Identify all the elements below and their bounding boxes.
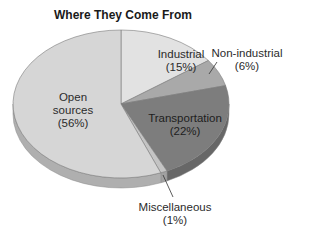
label-miscellaneous: Miscellaneous (1%) xyxy=(130,201,220,227)
label-open-sources: Open sources (56%) xyxy=(38,91,108,130)
label-nonindustrial-pct: (6%) xyxy=(205,60,287,73)
label-open-name-1: Open xyxy=(38,91,108,104)
label-open-pct: (56%) xyxy=(38,117,108,130)
label-misc-pct: (1%) xyxy=(130,214,220,227)
label-open-name-2: sources xyxy=(38,104,108,117)
label-transportation-pct: (22%) xyxy=(140,125,230,138)
label-transportation: Transportation (22%) xyxy=(140,112,230,138)
label-nonindustrial: Non-industrial (6%) xyxy=(205,47,287,73)
label-industrial-pct: (15%) xyxy=(150,61,212,74)
label-industrial-name: Industrial xyxy=(150,48,212,61)
label-industrial: Industrial (15%) xyxy=(150,48,212,74)
label-misc-name: Miscellaneous xyxy=(130,201,220,214)
label-transportation-name: Transportation xyxy=(140,112,230,125)
label-nonindustrial-name: Non-industrial xyxy=(205,47,287,60)
